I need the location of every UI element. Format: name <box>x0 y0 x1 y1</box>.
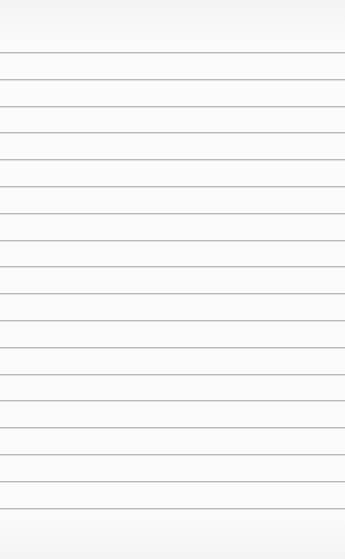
ruled-line <box>0 481 345 482</box>
ruled-line <box>0 347 345 348</box>
ruled-line <box>0 213 345 214</box>
ruled-line <box>0 266 345 267</box>
ruled-line <box>0 240 345 241</box>
ruled-line <box>0 132 345 133</box>
ruled-line <box>0 320 345 321</box>
ruled-line <box>0 52 345 53</box>
ruled-line <box>0 374 345 375</box>
ruled-line <box>0 293 345 294</box>
ruled-line <box>0 427 345 428</box>
ruled-line <box>0 159 345 160</box>
ruled-line <box>0 454 345 455</box>
ruled-line <box>0 186 345 187</box>
ruled-line <box>0 400 345 401</box>
ruled-line <box>0 79 345 80</box>
lined-paper <box>0 0 345 559</box>
ruled-line <box>0 106 345 107</box>
ruled-line <box>0 508 345 509</box>
